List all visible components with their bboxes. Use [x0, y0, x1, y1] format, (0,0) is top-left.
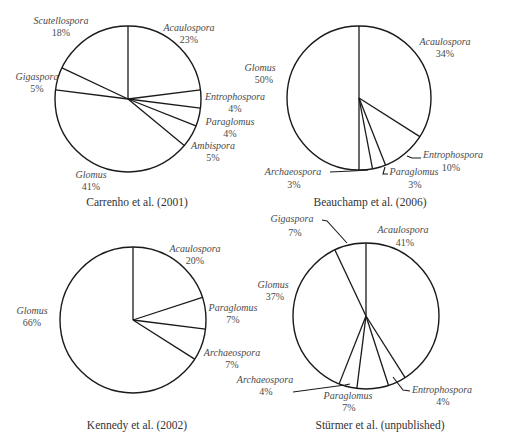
slice-percent-paraglomus: 4% [223, 128, 236, 139]
pie-chart-2: Acaulospora34%Entrophospora10%Paraglomus… [244, 26, 483, 209]
slice-label-archaeospora: Archaeospora [264, 166, 321, 177]
slice-label-acaulospora: Acaulospora [418, 36, 470, 47]
slice-percent-acaulospora: 23% [180, 34, 198, 45]
slice-label-entrophospora: Entrophospora [204, 91, 265, 102]
chart-caption: Kennedy et al. (2002) [87, 419, 187, 432]
slice-label-glomus: Glomus [257, 279, 288, 290]
slice-percent-entrophospora: 4% [436, 396, 449, 407]
slice-percent-acaulospora: 34% [436, 48, 454, 59]
slice-label-glomus: Glomus [75, 169, 106, 180]
slice-percent-glomus: 37% [266, 291, 284, 302]
pie-chart-1: Acaulospora23%Entrophospora4%Paraglomus4… [16, 15, 266, 209]
slice-percent-acaulospora: 41% [396, 237, 414, 248]
slice-label-acaulospora: Acaulospora [162, 22, 214, 33]
slice-label-paraglomus: Paraglomus [205, 116, 255, 127]
slice-percent-archaeospora: 3% [287, 179, 300, 190]
leader-line [330, 170, 368, 172]
chart-caption: Carrenho et al. (2001) [86, 196, 188, 209]
slice-percent-entrophospora: 10% [442, 162, 460, 173]
slice-label-gigaspora: Gigaspora [16, 71, 59, 82]
slice-label-paraglomus: Paraglomus [389, 166, 439, 177]
slice-percent-gigaspora: 7% [288, 227, 301, 238]
slice-percent-glomus: 41% [82, 181, 100, 192]
slice-label-gigaspora: Gigaspora [271, 213, 314, 224]
pie-chart-3: Acaulospora20%Paraglomus7%Archaeospora7%… [16, 243, 260, 432]
slice-label-scutellospora: Scutellospora [34, 15, 89, 26]
slice-label-entrophospora: Entrophospora [422, 149, 483, 160]
slice-percent-paraglomus: 7% [226, 314, 239, 325]
slice-label-acaulospora: Acaulospora [168, 243, 220, 254]
slice-percent-glomus: 50% [255, 74, 273, 85]
slice-label-glomus: Glomus [16, 305, 47, 316]
slice-label-glomus: Glomus [244, 62, 275, 73]
leader-line [407, 156, 421, 158]
slice-percent-entrophospora: 4% [228, 103, 241, 114]
pie-chart-figure: Acaulospora23%Entrophospora4%Paraglomus4… [0, 0, 513, 448]
slice-label-entrophospora: Entrophospora [411, 384, 472, 395]
slice-label-acaulospora: Acaulospora [376, 224, 428, 235]
slice-percent-scutellospora: 18% [52, 27, 70, 38]
slice-label-ambispora: Ambispora [190, 140, 235, 151]
slice-percent-gigaspora: 5% [30, 83, 43, 94]
slice-label-archaeospora: Archaeospora [203, 347, 260, 358]
slice-percent-acaulospora: 20% [186, 255, 204, 266]
slice-percent-glomus: 66% [23, 317, 41, 328]
chart-caption: Stürmer et al. (unpublished) [315, 419, 444, 432]
slice-label-paraglomus: Paraglomus [208, 302, 258, 313]
slice-percent-paraglomus: 7% [342, 402, 355, 413]
chart-caption: Beauchamp et al. (2006) [313, 196, 426, 209]
pie-chart-4: Acaulospora41%Entrophospora4%Paraglomus7… [236, 213, 472, 432]
slice-percent-archaeospora: 4% [259, 386, 272, 397]
slice-label-paraglomus: Paraglomus [323, 390, 373, 401]
leader-line [322, 220, 347, 243]
slice-percent-paraglomus: 3% [408, 179, 421, 190]
pie-charts-svg: Acaulospora23%Entrophospora4%Paraglomus4… [0, 0, 513, 448]
slice-percent-archaeospora: 7% [225, 359, 238, 370]
slice-percent-ambispora: 5% [206, 152, 219, 163]
slice-label-archaeospora: Archaeospora [236, 374, 293, 385]
leader-line [383, 167, 388, 174]
